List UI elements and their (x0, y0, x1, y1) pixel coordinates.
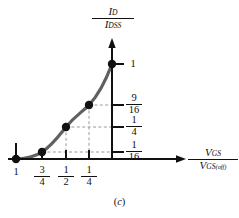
y-axis-label-numerator: ID (92, 6, 134, 18)
transfer-curve (16, 64, 112, 159)
y-axis-label: ID IDSS (92, 6, 134, 30)
data-point-1-4-9-16 (85, 101, 93, 109)
x-axis-arrow-icon (176, 155, 186, 162)
x-tick-label-3-4: 3 4 (34, 165, 50, 187)
data-point-1-2-1-4 (62, 123, 70, 131)
y-axis-arrow-icon (108, 38, 115, 48)
x-tick-label-1-4: 1 4 (81, 165, 97, 187)
data-point-3-4-1-16 (38, 148, 46, 156)
y-tick-label-1-4: 1 4 (126, 115, 142, 137)
y-axis-label-denominator: IDSS (92, 18, 134, 31)
data-point-1-0 (12, 155, 20, 163)
y-axis (108, 38, 115, 159)
data-points (12, 60, 116, 163)
figure-container: ID IDSS VGS VGS(off) 1 9 16 1 4 1 16 1 3… (0, 0, 239, 218)
guide-lines (42, 105, 112, 159)
y-axis-ticks (112, 64, 124, 152)
y-tick-label-9-16: 9 16 (126, 93, 142, 115)
x-axis-label-denominator: VGS(off) (188, 159, 238, 172)
data-point-0-1 (108, 60, 116, 68)
x-axis-label: VGS VGS(off) (188, 147, 238, 171)
x-tick-label-1: 1 (9, 166, 23, 177)
x-axis-label-numerator: VGS (188, 147, 238, 159)
y-tick-label-1-16: 1 16 (126, 140, 142, 162)
x-tick-label-1-2: 1 2 (58, 165, 74, 187)
figure-caption: (c) (0, 196, 239, 207)
y-tick-label-1: 1 (126, 58, 140, 69)
